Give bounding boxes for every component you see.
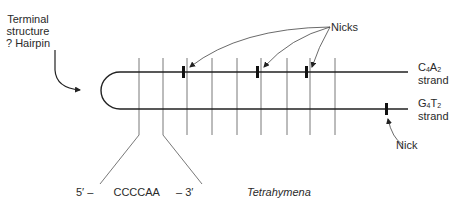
organism-label: Tetrahymena [247, 186, 311, 198]
sub-2: 2 [437, 66, 441, 73]
five-prime-label: 5′ – [76, 186, 93, 198]
terminal-line-3: ? Hairpin [6, 37, 50, 49]
repeat-sequence: 5′ – CCCCAA – 3′ [76, 186, 193, 198]
nick-arrow [312, 27, 330, 67]
hairpin-strands [101, 72, 408, 109]
terminal-line-1: Terminal [6, 13, 50, 25]
nicks-arrows [190, 27, 330, 67]
base-g: G [418, 97, 427, 109]
expansion-line-left [100, 135, 139, 184]
nicks-label: Nicks [331, 21, 358, 33]
expansion-line-right [163, 135, 202, 184]
strand-word: strand [418, 75, 449, 86]
terminal-arrow [55, 50, 80, 90]
terminal-structure-label: Terminal structure ? Hairpin [6, 13, 50, 49]
strand-word: strand [418, 111, 449, 122]
repeat-unit: CCCCAA [113, 186, 159, 198]
terminal-line-2: structure [6, 25, 50, 37]
repeat-expansion [100, 135, 202, 184]
base-c: C [418, 61, 426, 73]
bottom-nick-mark [385, 103, 388, 115]
nick-mark [182, 66, 185, 78]
nick-label: Nick [396, 139, 417, 151]
nick-mark [305, 66, 308, 78]
telomere-diagram [0, 0, 461, 212]
c4a2-strand-label: C4A2 strand [418, 62, 449, 86]
sub-2: 2 [437, 102, 441, 109]
nick-mark [256, 66, 259, 78]
three-prime-label: – 3′ [176, 186, 193, 198]
g4t2-strand-label: G4T2 strand [418, 98, 449, 122]
nick-arrow [190, 27, 330, 67]
